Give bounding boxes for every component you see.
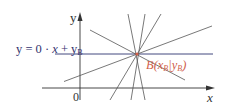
equation-plus: + y [58, 42, 78, 56]
equation-lhs: y = 0 · [16, 42, 52, 56]
pencil-line-steep-2 [131, 14, 145, 100]
origin-label: 0 [73, 91, 79, 103]
point-b-label: B(xB|yB) [146, 59, 186, 73]
point-label-mid: |y [168, 58, 177, 72]
horizontal-line-equation: y = 0 · x + yB [16, 43, 83, 57]
point-label-open: B(x [146, 58, 163, 72]
point-b-marker [135, 52, 138, 55]
equation-subscript: B [77, 48, 82, 57]
pencil-line-steep-1 [110, 14, 161, 100]
y-axis-arrow-icon [78, 12, 83, 21]
point-label-close: ) [182, 58, 186, 72]
y-axis-label: y [70, 11, 77, 24]
pencil-line-steep-3 [128, 14, 145, 100]
x-axis-label: x [207, 91, 213, 104]
